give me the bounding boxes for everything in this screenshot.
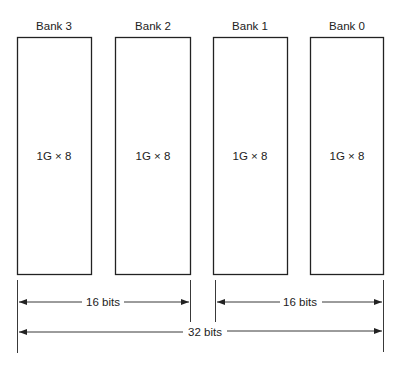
chip-capacity: 1G × 8 [233, 150, 268, 162]
extension-lines [18, 280, 384, 353]
bank-label: Bank 0 [329, 20, 365, 32]
bank-label: Bank 3 [36, 20, 72, 32]
bank-2: Bank 2 1G × 8 [116, 20, 191, 275]
bank-label: Bank 1 [232, 20, 268, 32]
dimension-label: 32 bits [188, 326, 222, 338]
dimension-16-bits-left: 16 bits [19, 296, 189, 308]
bank-1: Bank 1 1G × 8 [214, 20, 288, 275]
bank-3: Bank 3 1G × 8 [18, 20, 92, 275]
dimension-16-bits-right: 16 bits [217, 296, 382, 308]
dimension-label: 16 bits [86, 296, 120, 308]
dimension-label: 16 bits [283, 296, 317, 308]
chip-capacity: 1G × 8 [37, 150, 72, 162]
dimension-32-bits: 32 bits [19, 326, 382, 338]
memory-bank-diagram: Bank 3 1G × 8 Bank 2 1G × 8 Bank 1 1G × … [0, 0, 397, 367]
bank-label: Bank 2 [135, 20, 171, 32]
chip-capacity: 1G × 8 [136, 150, 171, 162]
bank-0: Bank 0 1G × 8 [311, 20, 384, 275]
chip-capacity: 1G × 8 [330, 150, 365, 162]
